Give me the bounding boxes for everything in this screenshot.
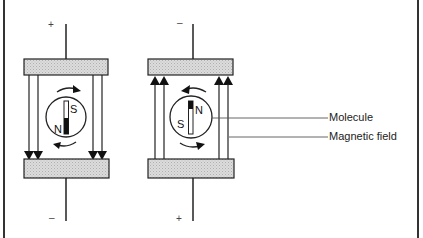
magnetic-field-label: Magnetic field bbox=[329, 130, 397, 142]
left-bottom-sign: – bbox=[49, 212, 55, 223]
left-panel: + – S N bbox=[24, 19, 109, 223]
right-bottom-sign: + bbox=[176, 213, 182, 224]
callouts: Molecule Magnetic field bbox=[212, 111, 397, 142]
right-top-sign: – bbox=[177, 17, 183, 28]
right-molecule: N S bbox=[170, 96, 212, 138]
left-bottom-plate bbox=[24, 159, 109, 178]
left-molecule-bottom-pole: N bbox=[54, 123, 62, 135]
right-rotation-arrow-top-icon bbox=[187, 88, 206, 92]
right-molecule-side-pole: S bbox=[177, 118, 184, 130]
left-rotation-arrowhead-bottom-icon bbox=[53, 142, 61, 149]
right-bottom-plate bbox=[148, 159, 234, 178]
right-field-arrow-up-icons bbox=[150, 76, 233, 85]
molecule-label: Molecule bbox=[329, 111, 373, 123]
right-top-plate bbox=[148, 59, 233, 75]
right-rotation-arrowhead-bottom-icon bbox=[196, 142, 205, 150]
left-rotation-arrowhead-top-icon bbox=[73, 85, 81, 93]
left-top-plate bbox=[24, 59, 108, 75]
right-panel: – + N S bbox=[148, 17, 234, 224]
left-top-sign: + bbox=[48, 19, 54, 30]
magnet-diagram: + – S N bbox=[0, 0, 423, 238]
left-molecule: S N bbox=[46, 97, 86, 137]
right-molecule-top-pole: N bbox=[195, 104, 203, 116]
left-molecule-top-pole: S bbox=[70, 103, 77, 115]
right-rotation-arrowhead-top-icon bbox=[181, 85, 190, 94]
